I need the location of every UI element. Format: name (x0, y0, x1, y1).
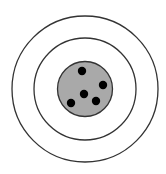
hit-dot (78, 67, 86, 75)
hit-dot (67, 99, 75, 107)
hit-dot (80, 90, 88, 98)
target-diagram (0, 0, 166, 174)
hit-dot (99, 81, 107, 89)
target-rings (12, 16, 158, 162)
hit-dot (92, 97, 100, 105)
